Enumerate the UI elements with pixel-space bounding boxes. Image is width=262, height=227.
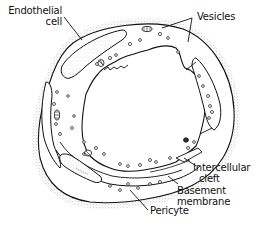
- label-intercellular-cleft-line2: cleft: [193, 174, 250, 185]
- label-basement-membrane: Basement membrane: [177, 186, 230, 207]
- label-intercellular-cleft: Intercellular cleft: [193, 163, 250, 184]
- label-endothelial-cell: Endothelial cell: [4, 6, 62, 27]
- label-vesicles-text: Vesicles: [197, 11, 235, 22]
- label-basement-membrane-line1: Basement: [177, 186, 230, 197]
- label-endothelial-cell-line2: cell: [4, 17, 62, 28]
- label-intercellular-cleft-line1: Intercellular: [193, 163, 250, 174]
- label-endothelial-cell-line1: Endothelial: [4, 6, 62, 17]
- label-vesicles: Vesicles: [197, 12, 235, 23]
- label-pericyte: Pericyte: [150, 206, 189, 217]
- label-pericyte-text: Pericyte: [150, 205, 189, 216]
